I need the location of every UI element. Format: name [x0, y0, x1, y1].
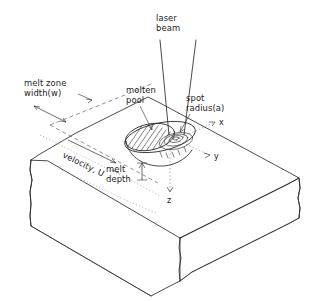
- block-right-corner-edge: [298, 178, 300, 218]
- spot-radius-label-line2: radius(a): [186, 103, 224, 113]
- laser-beam-label-group: laser beam: [156, 13, 180, 33]
- block-right-bottom-edge: [180, 218, 299, 281]
- laser-beam-cone: [160, 40, 196, 135]
- melt-zone-width-leader: [78, 94, 92, 100]
- block-left-corner-edge: [30, 160, 32, 226]
- molten-pool-label-line2: pool: [126, 95, 144, 105]
- y-axis-arrowhead: [204, 153, 210, 158]
- block-front-bottom-edge: [31, 226, 151, 296]
- melt-zone-width-dimension-line: [34, 106, 66, 122]
- melt-zone-width-label-group: melt zone width(w): [24, 78, 92, 122]
- laser-beam-label-line1: laser: [156, 13, 177, 23]
- velocity-label: velocity, U: [61, 150, 106, 179]
- molten-pool-group: [122, 116, 198, 168]
- block-front-face: [30, 160, 180, 296]
- melt-zone-width-label-line2: width(w): [24, 88, 61, 98]
- melt-zone-width-leader-arrowhead: [86, 99, 92, 103]
- melt-depth-label-line2: depth: [106, 174, 131, 184]
- laser-melting-diagram: x y z laser beam melt zone width(w) molt…: [0, 0, 318, 301]
- laser-beam-label-line2: beam: [156, 23, 180, 33]
- laser-beam-left-edge: [160, 40, 169, 135]
- y-axis-label: y: [214, 152, 219, 161]
- z-axis-arrowhead: [167, 187, 173, 192]
- z-axis-label: z: [167, 196, 171, 205]
- block-top-face: [31, 97, 299, 238]
- block-right-face: [180, 178, 300, 281]
- laser-beam-right-edge: [184, 40, 196, 135]
- spot-radius-label-line1: spot: [186, 93, 205, 103]
- x-axis-arrowhead: [209, 122, 215, 126]
- molten-pool-label-line1: molten: [126, 85, 156, 95]
- diagram-canvas: x y z laser beam melt zone width(w) molt…: [0, 0, 318, 301]
- melt-depth-label-line1: melt: [106, 164, 126, 174]
- melt-zone-width-label-line1: melt zone: [24, 78, 66, 88]
- x-axis-label: x: [219, 118, 224, 127]
